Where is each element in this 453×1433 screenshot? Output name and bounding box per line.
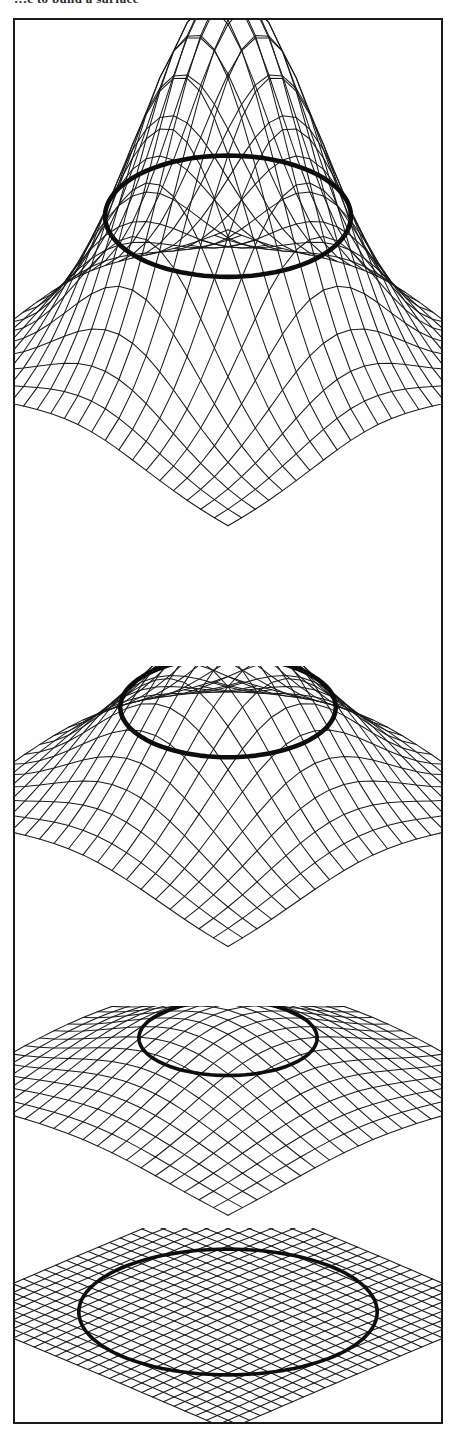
surface-wireframe-1 [15,20,441,666]
surface-wireframe-2 [15,666,441,1006]
contour-loop-4 [79,1249,377,1375]
surface-wireframe-3 [15,1006,441,1228]
figure-frame [13,18,443,1424]
contour-loop-3 [139,1006,317,1076]
surface-plot-panel-3 [15,1006,441,1228]
surface-wireframe-4 [15,1228,441,1422]
surface-plot-panel-1 [15,20,441,666]
contour-loop-1 [105,156,351,277]
surface-plot-panel-4 [15,1228,441,1422]
surface-plot-panel-2 [15,666,441,1006]
clipped-header-text: …e to build a surface [14,0,314,5]
